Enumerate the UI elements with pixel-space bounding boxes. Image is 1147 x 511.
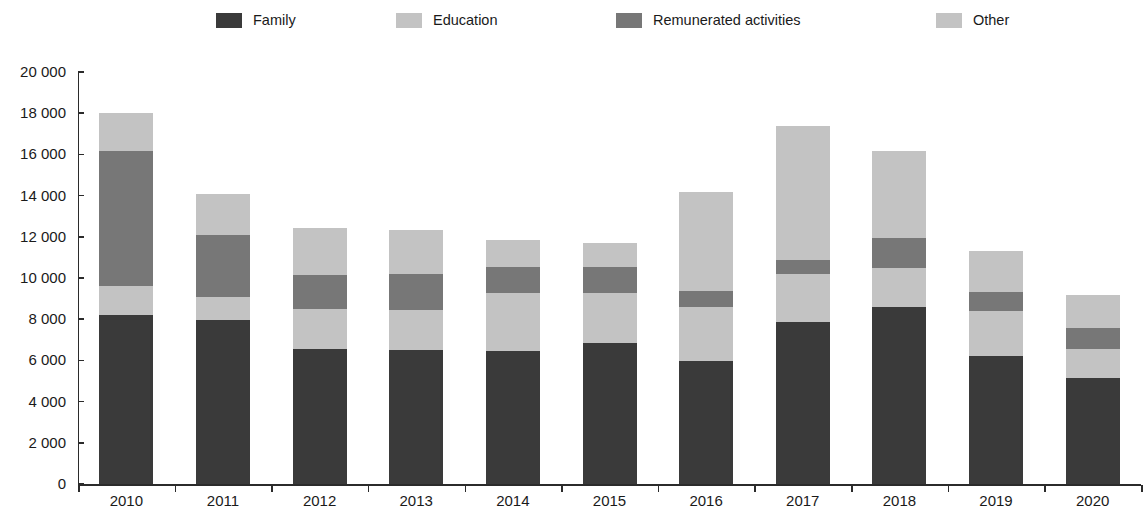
x-tick-label: 2020 [1044, 492, 1141, 509]
bar-segment-other[interactable] [583, 243, 637, 267]
bar-segment-family[interactable] [293, 349, 347, 484]
bar-segment-education[interactable] [293, 309, 347, 349]
bar-segment-family[interactable] [486, 351, 540, 484]
bar-segment-other[interactable] [389, 230, 443, 273]
bar-2014[interactable] [486, 239, 540, 484]
bar-segment-family[interactable] [969, 356, 1023, 484]
x-tick-label: 2014 [465, 492, 562, 509]
y-tick-label: 10 000 [20, 270, 66, 285]
bar-segment-remunerated-activities[interactable] [486, 267, 540, 293]
bar-segment-education[interactable] [389, 310, 443, 351]
x-tick-label: 2011 [175, 492, 272, 509]
x-tick-mark [1141, 485, 1143, 492]
bar-segment-other[interactable] [196, 194, 250, 236]
y-tick-label: 2 000 [28, 435, 66, 450]
bar-segment-education[interactable] [99, 286, 153, 315]
x-tick-label: 2018 [851, 492, 948, 509]
legend-label: Other [973, 13, 1009, 28]
x-tick-mark [271, 485, 273, 492]
legend-label: Family [253, 13, 296, 28]
bar-segment-family[interactable] [872, 307, 926, 484]
bar-segment-other[interactable] [969, 251, 1023, 292]
legend-item-education: Education [396, 13, 498, 28]
bar-2017[interactable] [776, 126, 830, 484]
y-tick-label: 14 000 [20, 188, 66, 203]
bar-segment-remunerated-activities[interactable] [679, 291, 733, 307]
x-tick-mark [851, 485, 853, 492]
legend-item-family: Family [216, 13, 296, 28]
bar-segment-education[interactable] [196, 297, 250, 320]
x-tick-mark [368, 485, 370, 492]
bar-segment-remunerated-activities[interactable] [1066, 328, 1120, 349]
y-tick-label: 20 000 [20, 64, 66, 79]
legend-swatch-icon [936, 13, 962, 28]
bar-segment-remunerated-activities[interactable] [196, 235, 250, 296]
bar-segment-family[interactable] [389, 350, 443, 484]
bar-segment-other[interactable] [1066, 295, 1120, 327]
bar-2010[interactable] [99, 113, 153, 484]
bar-2015[interactable] [583, 243, 637, 484]
bar-segment-remunerated-activities[interactable] [583, 267, 637, 293]
chart-legend: FamilyEducationRemunerated activitiesOth… [0, 0, 1147, 46]
legend-label: Remunerated activities [653, 13, 801, 28]
bar-2013[interactable] [389, 230, 443, 484]
x-tick-mark [948, 485, 950, 492]
bar-segment-other[interactable] [99, 113, 153, 152]
plot-area [78, 72, 1141, 484]
x-tick-label: 2017 [754, 492, 851, 509]
bar-2020[interactable] [1066, 295, 1120, 484]
bar-segment-remunerated-activities[interactable] [99, 151, 153, 286]
x-tick-mark [561, 485, 563, 492]
legend-item-other: Other [936, 13, 1009, 28]
bar-segment-family[interactable] [196, 320, 250, 484]
x-tick-label: 2010 [78, 492, 175, 509]
bar-segment-education[interactable] [679, 307, 733, 361]
y-tick-label: 16 000 [20, 146, 66, 161]
legend-item-remunerated-activities: Remunerated activities [616, 13, 801, 28]
bar-segment-family[interactable] [583, 343, 637, 484]
bar-segment-other[interactable] [679, 192, 733, 291]
bar-segment-remunerated-activities[interactable] [872, 238, 926, 268]
legend-label: Education [433, 13, 498, 28]
x-tick-label: 2016 [658, 492, 755, 509]
bar-2012[interactable] [293, 228, 347, 484]
y-tick-label: 12 000 [20, 229, 66, 244]
bar-2018[interactable] [872, 151, 926, 484]
x-tick-label: 2012 [271, 492, 368, 509]
x-axis-line [78, 484, 1141, 486]
x-tick-mark [658, 485, 660, 492]
bar-segment-other[interactable] [776, 126, 830, 260]
y-tick-label: 4 000 [28, 394, 66, 409]
bar-segment-family[interactable] [776, 322, 830, 484]
bar-segment-remunerated-activities[interactable] [389, 274, 443, 310]
y-tick-label: 18 000 [20, 105, 66, 120]
bar-segment-education[interactable] [872, 268, 926, 307]
bar-segment-education[interactable] [1066, 349, 1120, 378]
bar-segment-family[interactable] [679, 361, 733, 484]
bar-segment-remunerated-activities[interactable] [969, 292, 1023, 311]
legend-swatch-icon [616, 13, 642, 28]
x-tick-label: 2019 [948, 492, 1045, 509]
x-tick-mark [1044, 485, 1046, 492]
bar-2019[interactable] [969, 251, 1023, 484]
bar-segment-family[interactable] [1066, 378, 1120, 484]
bar-segment-other[interactable] [486, 240, 540, 268]
y-tick-label: 8 000 [28, 311, 66, 326]
bar-segment-other[interactable] [872, 151, 926, 239]
bar-segment-remunerated-activities[interactable] [776, 260, 830, 274]
bar-segment-education[interactable] [486, 293, 540, 351]
x-tick-mark [175, 485, 177, 492]
bar-2016[interactable] [679, 192, 733, 484]
legend-swatch-icon [216, 13, 242, 28]
bar-segment-family[interactable] [99, 315, 153, 484]
y-tick-label: 0 [58, 476, 66, 491]
y-tick-label: 6 000 [28, 352, 66, 367]
x-tick-label: 2015 [561, 492, 658, 509]
bar-2011[interactable] [196, 194, 250, 484]
bar-segment-education[interactable] [776, 274, 830, 321]
bar-segment-education[interactable] [969, 311, 1023, 356]
bar-segment-remunerated-activities[interactable] [293, 275, 347, 309]
bar-segment-education[interactable] [583, 293, 637, 343]
legend-swatch-icon [396, 13, 422, 28]
bar-segment-other[interactable] [293, 228, 347, 275]
